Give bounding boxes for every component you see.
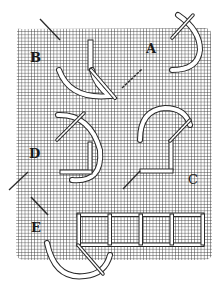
diagram-canvas	[0, 0, 222, 288]
step-label-d: D	[29, 147, 40, 160]
step-label-c: C	[188, 173, 198, 186]
step-label-e: E	[31, 221, 41, 234]
canvas-grid	[15, 28, 212, 260]
step-label-b: B	[30, 51, 41, 64]
step-label-a: A	[146, 42, 156, 55]
stitch-diagram: A B C D E	[0, 0, 222, 288]
